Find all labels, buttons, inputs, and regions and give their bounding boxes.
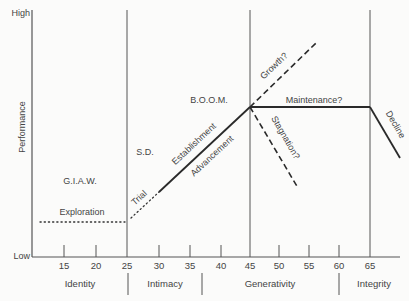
trial-label: Trial	[129, 188, 148, 207]
x-tick-label: 50	[274, 260, 285, 271]
region-label-sd: S.D.	[136, 147, 154, 157]
stage-label-integrity: Integrity	[357, 278, 391, 289]
x-tick-label: 65	[365, 260, 376, 271]
stage-label-identity: Identity	[65, 278, 96, 289]
x-tick-label: 45	[245, 260, 256, 271]
y-axis-title: Performance	[17, 101, 27, 153]
region-label-boom: B.O.O.M.	[190, 95, 228, 105]
x-tick-label: 15	[59, 260, 70, 271]
x-tick-label: 40	[216, 260, 227, 271]
x-tick-label: 30	[154, 260, 165, 271]
x-tick-label: 60	[334, 260, 345, 271]
x-tick-label: 20	[91, 260, 102, 271]
diagram-canvas: 15 20 25 30 35 40 45 50 55 60 65 High Lo…	[0, 0, 409, 301]
x-tick-label: 35	[185, 260, 196, 271]
y-axis-low-label: Low	[13, 251, 30, 261]
x-tick-marks	[64, 245, 339, 257]
x-tick-label: 55	[304, 260, 315, 271]
stage-label-intimacy: Intimacy	[147, 278, 183, 289]
exploration-label: Exploration	[59, 207, 104, 217]
growth-label: Growth?	[258, 50, 289, 81]
x-tick-label: 25	[122, 260, 133, 271]
stagnation-label: Stagnation?	[269, 114, 302, 161]
establishment-advancement-line	[159, 107, 250, 192]
maintenance-label: Maintenance?	[286, 95, 343, 105]
stage-label-generativity: Generativity	[245, 278, 296, 289]
career-stage-diagram: 15 20 25 30 35 40 45 50 55 60 65 High Lo…	[0, 0, 409, 301]
y-axis-high-label: High	[11, 8, 30, 18]
region-label-giaw: G.I.A.W.	[63, 176, 97, 186]
